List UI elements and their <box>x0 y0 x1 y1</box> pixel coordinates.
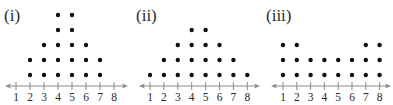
data-dot <box>350 73 354 77</box>
data-dot <box>217 73 221 77</box>
data-dot <box>28 73 32 77</box>
data-dot <box>217 58 221 62</box>
data-dot <box>245 73 249 77</box>
data-dot <box>231 58 235 62</box>
tick-label: 2 <box>161 91 167 103</box>
tick-label: 8 <box>111 91 117 103</box>
tick-label: 5 <box>69 91 75 103</box>
panel-label: (i) <box>4 6 20 25</box>
data-dot <box>84 73 88 77</box>
data-dot <box>203 28 207 32</box>
data-dot <box>308 58 312 62</box>
panel-label: (ii) <box>136 6 157 25</box>
dot-plot-panel-1: (i)12345678 <box>4 6 128 103</box>
data-dot <box>56 13 60 17</box>
data-dot <box>70 28 74 32</box>
data-dot <box>295 58 299 62</box>
data-dot <box>203 73 207 77</box>
data-dot <box>308 73 312 77</box>
data-dot <box>203 58 207 62</box>
data-dot <box>176 58 180 62</box>
data-dot <box>295 73 299 77</box>
data-dot <box>336 58 340 62</box>
data-dot <box>350 58 354 62</box>
tick-label: 8 <box>377 91 383 103</box>
data-dot <box>162 58 166 62</box>
tick-label: 3 <box>41 91 47 103</box>
data-dot <box>364 58 368 62</box>
data-dot <box>281 43 285 47</box>
tick-label: 6 <box>217 91 223 103</box>
data-dot <box>84 43 88 47</box>
data-dot <box>70 73 74 77</box>
data-dot <box>190 28 194 32</box>
data-dot <box>190 73 194 77</box>
dot-plots-figure: (i)12345678(ii)12345678(iii)12345678 <box>0 0 393 105</box>
data-dot <box>281 58 285 62</box>
data-dot <box>176 73 180 77</box>
data-dot <box>98 73 102 77</box>
tick-label: 7 <box>97 91 103 103</box>
data-dot <box>295 43 299 47</box>
dot-plot-panel-2: (ii)12345678 <box>136 6 260 103</box>
data-dot <box>281 73 285 77</box>
tick-label: 2 <box>294 91 300 103</box>
data-dot <box>98 58 102 62</box>
tick-label: 1 <box>147 91 153 103</box>
data-dot <box>217 43 221 47</box>
data-dot <box>377 43 381 47</box>
data-dot <box>336 73 340 77</box>
data-dot <box>70 43 74 47</box>
tick-label: 8 <box>244 91 250 103</box>
tick-label: 4 <box>55 91 61 103</box>
data-dot <box>377 58 381 62</box>
data-dot <box>56 43 60 47</box>
panel-label: (iii) <box>266 6 292 25</box>
data-dot <box>28 58 32 62</box>
data-dot <box>364 43 368 47</box>
data-dot <box>203 43 207 47</box>
data-dot <box>84 58 88 62</box>
tick-label: 7 <box>231 91 237 103</box>
data-dot <box>42 43 46 47</box>
data-dot <box>176 43 180 47</box>
data-dot <box>231 73 235 77</box>
tick-label: 1 <box>280 91 286 103</box>
data-dot <box>190 58 194 62</box>
tick-label: 4 <box>322 91 328 103</box>
data-dot <box>162 73 166 77</box>
dot-plot-panel-3: (iii)12345678 <box>266 6 391 103</box>
data-dot <box>70 58 74 62</box>
tick-label: 5 <box>335 91 341 103</box>
tick-label: 1 <box>13 91 19 103</box>
tick-label: 7 <box>363 91 369 103</box>
data-dot <box>70 13 74 17</box>
data-dot <box>56 28 60 32</box>
data-dot <box>364 73 368 77</box>
data-dot <box>42 58 46 62</box>
data-dot <box>322 73 326 77</box>
data-dot <box>190 43 194 47</box>
tick-label: 6 <box>349 91 355 103</box>
tick-label: 4 <box>189 91 195 103</box>
tick-label: 3 <box>175 91 181 103</box>
data-dot <box>42 73 46 77</box>
data-dot <box>377 73 381 77</box>
tick-label: 5 <box>203 91 209 103</box>
data-dot <box>148 73 152 77</box>
data-dot <box>56 73 60 77</box>
data-dot <box>56 58 60 62</box>
tick-label: 2 <box>27 91 33 103</box>
data-dot <box>322 58 326 62</box>
tick-label: 3 <box>308 91 314 103</box>
tick-label: 6 <box>83 91 89 103</box>
